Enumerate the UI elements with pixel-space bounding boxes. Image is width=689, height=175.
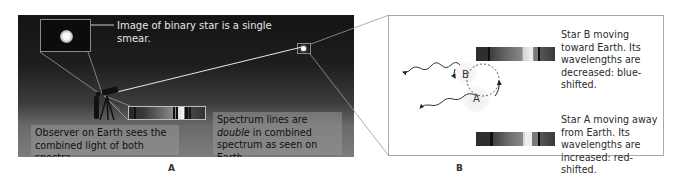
- panel-a-observation-scene: Image of binary star is a single smear. …: [18, 15, 354, 157]
- spectrum-caption: Spectrum lines are double in combined sp…: [213, 112, 342, 155]
- star-a-label: A: [473, 93, 480, 104]
- inset-caption: Image of binary star is a single smear.: [117, 19, 277, 45]
- combined-spectrum-icon: [128, 106, 206, 120]
- binary-star-smear-icon: [60, 30, 73, 43]
- blue-shifted-spectrum-icon: [476, 47, 555, 61]
- spectrum-caption-prefix: Spectrum lines are: [217, 114, 307, 125]
- spectrum-caption-emphasis: double: [217, 127, 250, 138]
- observer-caption: Observer on Earth sees the combined ligh…: [31, 125, 179, 155]
- panel-label-a: A: [168, 163, 175, 173]
- red-shifted-spectrum-icon: [476, 132, 555, 146]
- star-b-caption: Star B moving toward Earth. Its waveleng…: [561, 29, 665, 92]
- panel-label-b: B: [456, 163, 463, 173]
- distant-star-icon: [297, 43, 311, 54]
- binary-star-inset: [40, 19, 91, 52]
- star-a-caption: Star A moving away from Earth. Its wavel…: [561, 114, 665, 175]
- panel-b-doppler-diagram: Star B moving toward Earth. Its waveleng…: [388, 15, 664, 156]
- star-b-label: B: [462, 69, 469, 80]
